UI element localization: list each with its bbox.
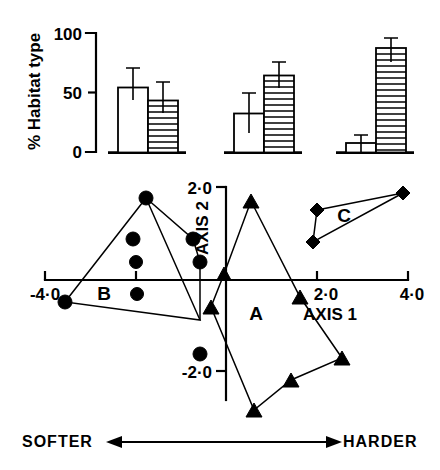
bar-y-tick-label-50: 50 — [63, 84, 82, 103]
group-b-point — [193, 255, 207, 269]
combined-figure-svg: % Habitat type 100 50 0 — [0, 0, 440, 470]
group-a-point — [334, 351, 350, 365]
ordination-x-tick-label-4: 4·0 — [400, 285, 425, 304]
gradient-arrow-row: SOFTER HARDER — [22, 433, 417, 450]
group-c-point — [396, 186, 410, 200]
group-b-point — [126, 232, 140, 246]
gradient-arrow-head-right — [326, 436, 342, 448]
bar-group-2 — [224, 62, 302, 153]
group-b-point — [186, 232, 200, 246]
gradient-left-label: SOFTER — [22, 433, 93, 450]
group-c-hull — [313, 193, 403, 242]
bar-group-1 — [108, 68, 186, 153]
group-a-point — [292, 290, 308, 304]
bar-y-tick-label-0: 0 — [73, 143, 82, 162]
group-b-point — [130, 256, 143, 269]
group-b-point — [139, 191, 153, 205]
bar-y-axis-label: % Habitat type — [25, 33, 44, 150]
group-c: C — [306, 186, 410, 249]
ordination-panel: -4·0 2·0 4·0 2·0 -2·0 AXIS 1 AXIS 2 B — [22, 179, 424, 450]
bar-group-3-hatched — [376, 48, 406, 153]
group-b-point — [193, 347, 207, 361]
bar-chart-panel: % Habitat type 100 50 0 — [25, 25, 414, 162]
group-a-point — [243, 194, 259, 208]
group-c-point — [310, 203, 324, 217]
gradient-right-label: HARDER — [343, 433, 417, 450]
group-c-label: C — [337, 205, 351, 226]
ordination-x-tick-label-neg4: -4·0 — [30, 285, 60, 304]
group-a-point — [203, 300, 219, 314]
bar-group-3 — [336, 38, 414, 153]
ordination-x-tick-label-2: 2·0 — [314, 285, 339, 304]
gradient-arrow-head-left — [106, 436, 122, 448]
ordination-y-tick-label-neg2: -2·0 — [182, 363, 212, 382]
bar-y-tick-label-100: 100 — [54, 25, 82, 44]
group-a-label: A — [249, 303, 263, 324]
group-b: B — [58, 191, 207, 361]
group-b-point — [131, 288, 144, 301]
figure-container: % Habitat type 100 50 0 — [0, 0, 440, 470]
group-b-label: B — [97, 283, 111, 304]
ordination-y-tick-label-2: 2·0 — [187, 179, 212, 198]
group-a-point — [217, 267, 231, 280]
group-a-point — [283, 373, 299, 387]
group-b-point — [58, 295, 72, 309]
group-c-point — [306, 235, 320, 249]
